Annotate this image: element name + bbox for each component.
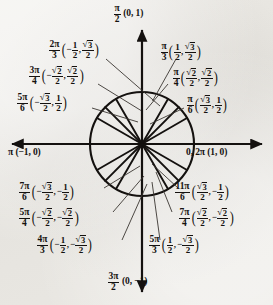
minus-sign: − (57, 213, 62, 222)
component-fraction: 12 (62, 182, 68, 201)
angle-fraction: 2π3 (49, 40, 61, 60)
minus-sign: − (46, 71, 51, 80)
minus-sign: − (36, 213, 41, 222)
component-fraction: 12 (72, 40, 78, 59)
paren-close: ) (70, 185, 74, 199)
y-coordinate: 32 (82, 40, 94, 60)
angle-fraction: 5π3 (149, 235, 161, 255)
label-7pi-over-6: 7π6(−32,−12) (18, 182, 75, 202)
paren-open: ( (162, 238, 166, 252)
angle-fraction: π6 (187, 95, 194, 115)
component-fraction: 12 (174, 42, 180, 61)
minus-sign: − (70, 240, 75, 249)
paren-close: ) (63, 96, 67, 110)
radical: 3 (186, 42, 195, 52)
paren-close: ) (197, 45, 201, 59)
x-coordinate: −22 (46, 66, 63, 86)
label-5pi-over-3: 5π3(12,−32) (148, 235, 200, 255)
angle-fraction: 5π6 (17, 93, 29, 113)
radical: 2 (68, 66, 77, 76)
radical: 3 (83, 40, 92, 50)
component-fraction: 32 (82, 40, 93, 60)
y-coordinate: −12 (212, 182, 224, 201)
x-coordinate: 32 (200, 95, 212, 115)
numerator: 1 (61, 236, 65, 245)
label-5pi-over-6: 5π6(−32,12) (16, 93, 68, 113)
paren-open: ( (195, 98, 199, 112)
x-coordinate: 12 (174, 42, 181, 61)
diagram-canvas: π 2 (0, 1) 3π 2 (0, −1) π (−1, 0) 0, 2π … (0, 0, 273, 305)
angle-fraction: 4π3 (37, 235, 49, 255)
y-coordinate: 22 (67, 66, 79, 86)
minus-sign: − (34, 98, 39, 107)
x-coordinate: −12 (54, 235, 66, 254)
paren-open: ( (32, 211, 36, 225)
angle-fraction: 3π4 (29, 66, 41, 86)
paren-open: ( (30, 96, 34, 110)
radical: 2 (218, 208, 227, 218)
paren-open: ( (192, 185, 196, 199)
component-fraction: 22 (197, 208, 208, 228)
component-fraction: 22 (217, 208, 228, 228)
component-fraction: 22 (42, 208, 53, 228)
label-pi-left: π (−1, 0) (8, 148, 41, 158)
component-fraction: 22 (62, 208, 73, 228)
numerator: 1 (168, 236, 172, 245)
paren-open: ( (42, 69, 46, 83)
angle-fraction: π 2 (114, 4, 121, 24)
paren-open: ( (62, 43, 66, 57)
radical: 2 (187, 68, 196, 78)
component-fraction: 22 (52, 66, 63, 86)
paren-close: ) (223, 98, 227, 112)
angle-fraction: 11π6 (175, 182, 191, 202)
y-coordinate: 12 (55, 93, 62, 112)
radical: 3 (43, 182, 52, 192)
x-coordinate: −32 (36, 182, 53, 202)
paren-close: ) (225, 185, 229, 199)
component-fraction: 12 (55, 93, 61, 112)
minus-sign: − (54, 240, 59, 249)
x-coordinate: −12 (66, 40, 78, 59)
leader-5pi3 (152, 182, 160, 240)
component-fraction: 12 (60, 235, 66, 254)
y-coordinate: −22 (212, 208, 229, 228)
radical: 3 (183, 235, 192, 245)
paren-open: ( (181, 71, 185, 85)
paren-open: ( (50, 238, 54, 252)
label-3pi-over-4: 3π4(−22,22) (28, 66, 84, 86)
radical: 3 (198, 182, 207, 192)
component-fraction: 22 (186, 68, 197, 88)
component-fraction: 32 (200, 95, 211, 115)
paren-close: ) (195, 238, 199, 252)
numerator: 1 (218, 183, 222, 192)
component-fraction: 32 (75, 235, 86, 255)
angle-fraction: π3 (161, 42, 168, 62)
angle-fraction: 5π4 (19, 208, 31, 228)
label-7pi-over-4: 7π4(22,−22) (178, 208, 234, 228)
label-pi-over-3: π3(12,32) (160, 42, 202, 62)
numerator: 1 (73, 41, 77, 50)
minus-sign: − (36, 187, 41, 196)
x-coordinate: −22 (36, 208, 53, 228)
label-pi-over-4: π4(22,22) (172, 68, 219, 88)
component-fraction: 12 (215, 95, 221, 114)
label-5pi-over-4: 5π4(−22,−22) (18, 208, 79, 228)
angle-fraction: 7π4 (179, 208, 191, 228)
y-coordinate: −12 (57, 182, 69, 201)
component-fraction: 32 (182, 235, 193, 255)
angle-fraction: π4 (173, 68, 180, 88)
radical: 2 (202, 68, 211, 78)
label-2pi-over-3: 2π3(−12,32) (48, 40, 100, 60)
leader-7pi4 (156, 172, 172, 212)
component-fraction: 22 (201, 68, 212, 88)
component-fraction: 32 (40, 93, 51, 113)
radical: 2 (63, 208, 72, 218)
x-coordinate: −32 (34, 93, 51, 113)
x-coordinate: 32 (196, 182, 208, 202)
y-coordinate: 22 (201, 68, 213, 88)
paren-open: ( (32, 185, 36, 199)
paren-close: ) (230, 211, 234, 225)
radical: 2 (43, 208, 52, 218)
radical: 3 (76, 235, 85, 245)
coords-text: (0, −1) (122, 277, 147, 287)
